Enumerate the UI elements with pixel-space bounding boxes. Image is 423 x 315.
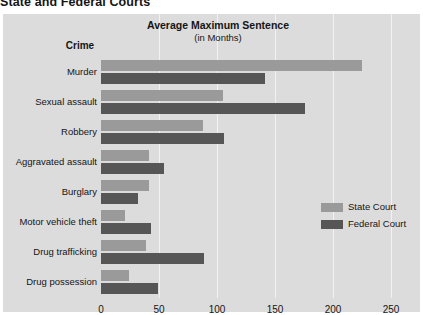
bar-state-court [101, 210, 125, 221]
bar-federal-court [101, 193, 138, 204]
x-axis-tick-label: 0 [81, 304, 121, 315]
category-label: Drug possession [1, 276, 97, 287]
bar-federal-court [101, 133, 224, 144]
x-axis-tick-label: 200 [313, 304, 353, 315]
bar-state-court [101, 240, 146, 251]
x-axis-tick-label: 50 [139, 304, 179, 315]
bar-federal-court [101, 253, 204, 264]
chart-row [101, 238, 420, 268]
x-axis-tick-label: 100 [197, 304, 237, 315]
legend-swatch-federal-court-icon [321, 220, 343, 229]
bar-federal-court [101, 283, 158, 294]
chart-row [101, 58, 420, 88]
chart-row [101, 268, 420, 298]
bar-state-court [101, 120, 203, 131]
value-column-header-line1: Average Maximum Sentence [123, 19, 313, 32]
bar-state-court [101, 90, 223, 101]
chart-row [101, 148, 420, 178]
x-axis-tick-label: 250 [371, 304, 411, 315]
x-axis-tick-label: 150 [255, 304, 295, 315]
legend-swatch-state-court-icon [321, 203, 343, 212]
chart-row [101, 88, 420, 118]
category-label: Drug trafficking [1, 246, 97, 257]
value-column-header: Average Maximum Sentence (in Months) [123, 19, 313, 44]
category-column-header: Crime [45, 40, 115, 51]
chart-panel: Crime Average Maximum Sentence (in Month… [3, 14, 420, 312]
bar-federal-court [101, 73, 265, 84]
bar-federal-court [101, 163, 164, 174]
bar-state-court [101, 180, 149, 191]
chart-row [101, 118, 420, 148]
page-title: State and Federal Courts [0, 0, 423, 10]
chart-title-bar: State and Federal Courts [0, 0, 423, 13]
bar-state-court [101, 150, 149, 161]
category-label: Motor vehicle theft [1, 216, 97, 227]
category-label: Burglary [1, 186, 97, 197]
chart-figure: State and Federal Courts Crime Average M… [0, 0, 423, 315]
value-column-header-line2: (in Months) [123, 32, 313, 44]
legend-label-federal-court: Federal Court [348, 217, 406, 231]
category-label: Aggravated assault [1, 156, 97, 167]
legend-label-state-court: State Court [348, 200, 396, 214]
bar-federal-court [101, 103, 305, 114]
category-label: Murder [1, 66, 97, 77]
bar-state-court [101, 270, 129, 281]
category-label: Robbery [1, 126, 97, 137]
legend-item-federal-court: Federal Court [321, 217, 421, 232]
chart-legend: State Court Federal Court [321, 200, 421, 234]
plot-area [101, 58, 420, 298]
category-label: Sexual assault [1, 96, 97, 107]
bar-state-court [101, 60, 362, 71]
bar-federal-court [101, 223, 151, 234]
legend-item-state-court: State Court [321, 200, 421, 215]
